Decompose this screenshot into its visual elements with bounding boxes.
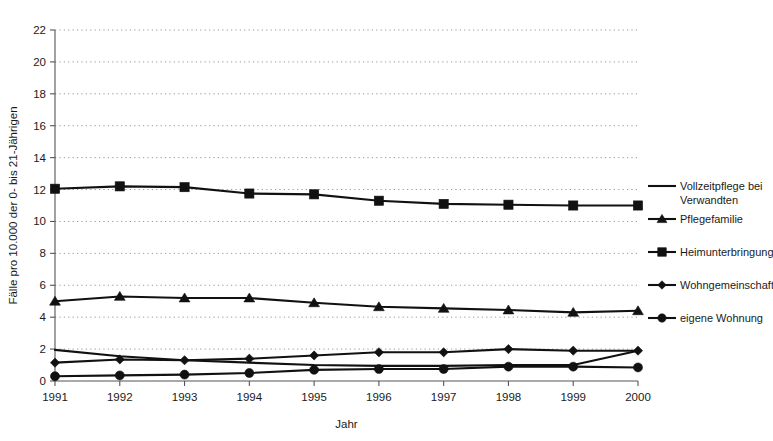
legend-item[interactable]: Vollzeitpflege beiVerwandten (648, 180, 763, 206)
x-axis-title: Jahr (335, 418, 358, 430)
data-point-marker-square (310, 190, 319, 199)
series-0 (55, 350, 638, 366)
series-line (55, 367, 638, 377)
legend-label: eigene Wohnung (680, 312, 763, 324)
data-point-marker-circle (634, 363, 643, 372)
data-point-marker-square (569, 201, 578, 210)
series-line (55, 350, 638, 366)
data-point-marker-circle (374, 365, 383, 374)
chart-canvas: 0246810121416182022199119921993199419951… (0, 0, 773, 441)
data-point-marker-diamond (504, 344, 513, 353)
x-tick-label: 1992 (107, 391, 133, 403)
data-point-marker-diamond (50, 358, 59, 367)
legend-item[interactable]: Wohngemeinschaft (648, 279, 773, 291)
data-point-marker-square (115, 182, 124, 191)
x-tick-label: 1991 (42, 391, 68, 403)
legend-label: Heimunterbringung (680, 246, 773, 258)
data-point-marker-circle (504, 362, 513, 371)
data-point-marker-diamond (633, 346, 642, 355)
series-line (55, 296, 638, 312)
data-point-marker-diamond (180, 356, 189, 365)
y-tick-label: 6 (40, 279, 46, 291)
y-tick-label: 20 (33, 56, 46, 68)
x-axis-ticks: 1991199219931994199519961997199819992000 (42, 381, 651, 403)
legend-item[interactable]: eigene Wohnung (648, 312, 763, 324)
data-point-marker-square (245, 189, 254, 198)
data-point-marker-circle (310, 365, 319, 374)
data-point-marker-square (633, 201, 642, 210)
line-chart: 0246810121416182022199119921993199419951… (0, 0, 773, 441)
legend-label: Wohngemeinschaft (680, 279, 773, 291)
data-point-marker-diamond (374, 348, 383, 357)
y-tick-label: 8 (40, 247, 46, 259)
x-tick-label: 1996 (366, 391, 392, 403)
data-point-marker-diamond (310, 351, 319, 360)
legend-item[interactable]: Heimunterbringung (648, 246, 773, 258)
x-tick-label: 1994 (237, 391, 263, 403)
x-tick-label: 1995 (301, 391, 327, 403)
gridlines (55, 30, 638, 349)
y-tick-label: 14 (33, 152, 46, 164)
y-tick-label: 10 (33, 215, 46, 227)
series-2 (50, 182, 642, 210)
y-axis-title: Fälle pro 10.000 der 0- bis 21-Jährigen (7, 106, 19, 304)
legend-item[interactable]: Pflegefamilie (648, 213, 743, 225)
y-tick-label: 4 (40, 311, 47, 323)
data-point-marker-square (50, 184, 59, 193)
y-tick-label: 12 (33, 184, 46, 196)
data-point-marker-circle (658, 314, 666, 322)
y-tick-label: 18 (33, 88, 46, 100)
data-point-marker-circle (439, 365, 448, 374)
legend: Vollzeitpflege beiVerwandtenPflegefamili… (648, 180, 773, 324)
y-tick-label: 0 (40, 375, 46, 387)
y-tick-label: 2 (40, 343, 46, 355)
legend-label: Vollzeitpflege bei (680, 180, 763, 192)
data-point-marker-square (658, 248, 666, 256)
data-point-marker-circle (569, 362, 578, 371)
x-tick-label: 2000 (625, 391, 651, 403)
series-line (55, 349, 638, 363)
data-point-marker-circle (245, 369, 254, 378)
series-1 (50, 291, 644, 316)
x-tick-label: 1993 (172, 391, 198, 403)
x-tick-label: 1999 (560, 391, 586, 403)
data-point-marker-diamond (658, 281, 666, 289)
x-tick-label: 1998 (496, 391, 522, 403)
y-axis-ticks: 0246810121416182022 (33, 24, 55, 387)
data-point-marker-circle (115, 371, 124, 380)
data-point-marker-square (180, 183, 189, 192)
data-point-marker-square (439, 199, 448, 208)
data-point-marker-circle (180, 370, 189, 379)
data-point-marker-circle (51, 372, 60, 381)
data-point-marker-square (374, 196, 383, 205)
y-tick-label: 22 (33, 24, 46, 36)
legend-label-line2: Verwandten (680, 194, 738, 206)
series-group (50, 182, 644, 381)
data-point-marker-diamond (569, 346, 578, 355)
legend-label: Pflegefamilie (680, 213, 743, 225)
series-3 (50, 344, 642, 367)
x-tick-label: 1997 (431, 391, 457, 403)
y-tick-label: 16 (33, 120, 46, 132)
data-point-marker-square (504, 200, 513, 209)
